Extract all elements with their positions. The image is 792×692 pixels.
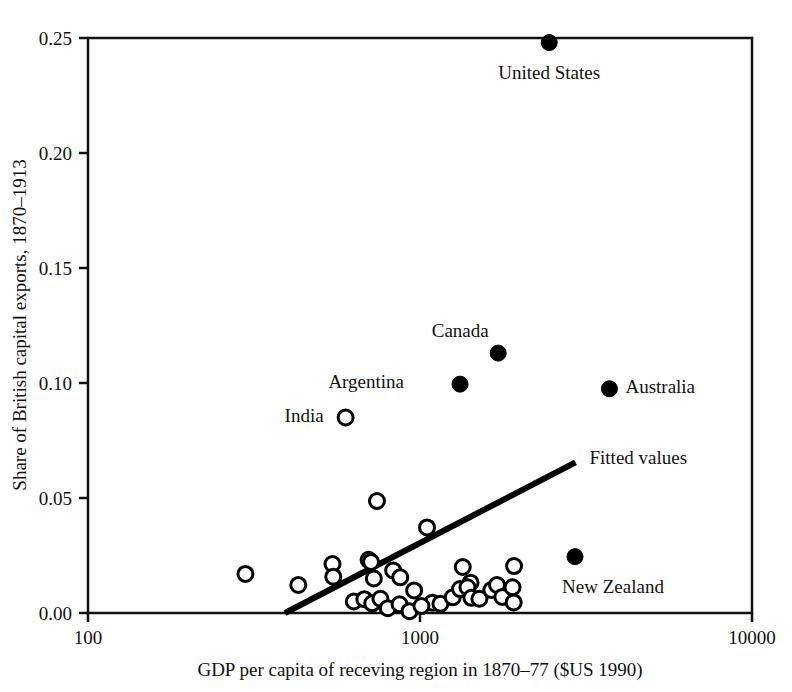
point-labels: United StatesCanadaArgentinaAustraliaNew…: [285, 62, 696, 597]
fitted-values-label: Fitted values: [589, 447, 687, 468]
data-point: [414, 599, 429, 614]
y-axis-ticks: 0.000.050.100.150.200.25: [39, 28, 88, 624]
data-point-india: [338, 410, 353, 425]
point-label-canada: Canada: [432, 320, 490, 341]
point-label-united-states: United States: [498, 62, 600, 83]
scatter-plot: 0.000.050.100.150.200.25 100100010000 Fi…: [0, 0, 792, 692]
y-axis-title: Share of British capital exports, 1870–1…: [9, 159, 30, 490]
data-point: [364, 554, 379, 569]
data-points: [238, 35, 617, 619]
y-tick-label: 0.10: [39, 373, 72, 394]
data-point: [505, 580, 520, 595]
x-tick-label: 1000: [401, 627, 439, 648]
data-point: [420, 520, 435, 535]
data-point-canada: [490, 345, 506, 361]
y-tick-label: 0.15: [39, 258, 72, 279]
data-point: [291, 577, 306, 592]
data-point-argentina: [452, 376, 468, 392]
data-point: [238, 566, 253, 581]
data-point: [326, 569, 341, 584]
chart-figure: 0.000.050.100.150.200.25 100100010000 Fi…: [0, 0, 792, 692]
x-axis-title: GDP per capita of receving region in 187…: [197, 659, 642, 681]
data-point: [393, 570, 408, 585]
data-point: [366, 571, 381, 586]
data-point: [455, 560, 470, 575]
x-tick-label: 10000: [728, 627, 776, 648]
y-tick-label: 0.00: [39, 603, 72, 624]
data-point: [369, 493, 384, 508]
y-tick-label: 0.20: [39, 143, 72, 164]
point-label-argentina: Argentina: [328, 371, 404, 392]
data-point-united-states: [541, 35, 557, 51]
data-point-new-zealand: [567, 549, 583, 565]
x-tick-label: 100: [74, 627, 103, 648]
point-label-india: India: [285, 405, 325, 426]
data-point: [507, 559, 522, 574]
fitted-line: [285, 462, 576, 613]
data-point: [407, 583, 422, 598]
point-label-australia: Australia: [625, 376, 695, 397]
point-label-new-zealand: New Zealand: [562, 576, 664, 597]
y-tick-label: 0.25: [39, 28, 72, 49]
data-point: [506, 595, 521, 610]
x-axis-ticks: 100100010000: [74, 613, 776, 648]
y-tick-label: 0.05: [39, 488, 72, 509]
data-point-australia: [601, 381, 617, 397]
